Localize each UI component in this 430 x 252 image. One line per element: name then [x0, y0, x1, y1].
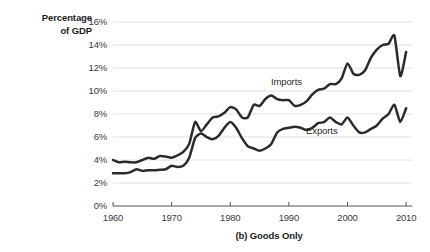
- y-tick-label: 0%: [67, 200, 107, 211]
- y-tick-label: 2%: [67, 177, 107, 188]
- x-tick-label: 1980: [207, 212, 253, 223]
- axes: [113, 202, 412, 206]
- y-tick-label: 10%: [67, 85, 107, 96]
- series-lines: [113, 35, 406, 173]
- x-tick-label: 1970: [149, 212, 195, 223]
- y-tick-label: 8%: [67, 108, 107, 119]
- y-tick-label: 6%: [67, 131, 107, 142]
- series-line-exports: [113, 105, 406, 174]
- y-tick-label: 14%: [67, 39, 107, 50]
- chart-figure: Percentage of GDP 0%2%4%6%8%10%12%14%16%…: [0, 0, 430, 252]
- series-line-imports: [113, 35, 406, 162]
- x-tick-label: 2010: [383, 212, 429, 223]
- y-tick-label: 16%: [67, 16, 107, 27]
- series-label-exports: Exports: [306, 125, 338, 136]
- y-tick-label: 12%: [67, 62, 107, 73]
- x-tick-label: 1960: [90, 212, 136, 223]
- y-tick-label: 4%: [67, 154, 107, 165]
- figure-caption: (b) Goods Only: [235, 230, 302, 241]
- x-tick-label: 1990: [266, 212, 312, 223]
- series-label-imports: Imports: [271, 76, 302, 87]
- x-tick-label: 2000: [325, 212, 371, 223]
